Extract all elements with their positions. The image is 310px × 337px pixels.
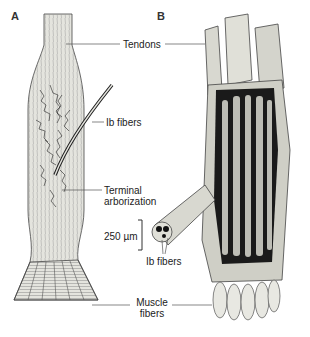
label-terminal-line2: arborization (104, 196, 156, 207)
label-terminal-line1: Terminal (104, 185, 142, 196)
label-ib-fibers-top: Ib fibers (106, 117, 142, 128)
label-tendons: Tendons (123, 39, 161, 50)
panel-b-drawing (152, 14, 290, 320)
panel-a-drawing (14, 14, 112, 300)
panel-letter-b: B (157, 10, 165, 22)
label-muscle-line2: fibers (132, 308, 172, 319)
panel-letter-a: A (11, 10, 19, 22)
label-muscle-line1: Muscle (132, 297, 172, 308)
label-ib-fibers-bottom: Ib fibers (146, 256, 182, 267)
scale-bar (138, 220, 142, 250)
leader-lines (62, 44, 212, 305)
label-scale-bar: 250 µm (104, 231, 138, 242)
figure-canvas (0, 0, 310, 337)
